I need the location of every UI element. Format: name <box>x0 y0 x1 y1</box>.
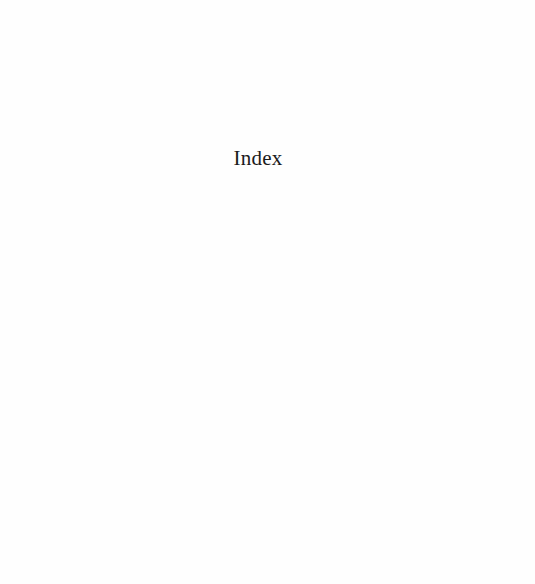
document-page: Index <box>0 0 535 584</box>
page-title: Index <box>0 146 516 170</box>
